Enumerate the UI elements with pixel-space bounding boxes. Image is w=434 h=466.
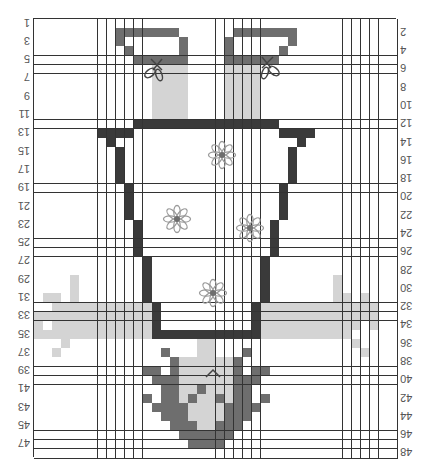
row-label: 46 xyxy=(400,429,422,439)
row-label: 48 xyxy=(400,447,422,457)
row-label: 28 xyxy=(400,265,422,275)
row-label: 11 xyxy=(8,109,30,119)
row-label: 23 xyxy=(8,219,30,229)
row-label: 1 xyxy=(8,18,30,28)
row-label: 43 xyxy=(8,402,30,412)
row-label: 42 xyxy=(400,393,422,403)
row-label: 27 xyxy=(8,255,30,265)
row-label: 33 xyxy=(8,310,30,320)
stitch-grid xyxy=(33,18,396,457)
row-label: 16 xyxy=(400,155,422,165)
row-label: 19 xyxy=(8,182,30,192)
row-label: 44 xyxy=(400,411,422,421)
row-label: 47 xyxy=(8,438,30,448)
knitting-chart: 1357911131517192123252729313335373941434… xyxy=(0,0,434,466)
row-label: 45 xyxy=(8,420,30,430)
row-label: 14 xyxy=(400,137,422,147)
row-label: 3 xyxy=(8,36,30,46)
row-label: 9 xyxy=(8,91,30,101)
row-label: 13 xyxy=(8,127,30,137)
row-label: 12 xyxy=(400,118,422,128)
row-label: 39 xyxy=(8,365,30,375)
row-label: 17 xyxy=(8,164,30,174)
row-label: 34 xyxy=(400,319,422,329)
row-label: 32 xyxy=(400,301,422,311)
row-label: 7 xyxy=(8,72,30,82)
row-label: 38 xyxy=(400,356,422,366)
row-label: 20 xyxy=(400,191,422,201)
row-label: 21 xyxy=(8,201,30,211)
row-label: 4 xyxy=(400,45,422,55)
row-label: 26 xyxy=(400,246,422,256)
row-label: 5 xyxy=(8,54,30,64)
row-label: 35 xyxy=(8,329,30,339)
row-label: 6 xyxy=(400,63,422,73)
row-label: 37 xyxy=(8,347,30,357)
row-label: 41 xyxy=(8,383,30,393)
row-label: 10 xyxy=(400,100,422,110)
row-label: 31 xyxy=(8,292,30,302)
row-label: 25 xyxy=(8,237,30,247)
row-label: 22 xyxy=(400,210,422,220)
row-label: 24 xyxy=(400,228,422,238)
row-label: 36 xyxy=(400,338,422,348)
row-label: 2 xyxy=(400,27,422,37)
grid-cell xyxy=(388,449,398,459)
row-label: 18 xyxy=(400,173,422,183)
row-label: 15 xyxy=(8,146,30,156)
row-label: 30 xyxy=(400,283,422,293)
row-label: 40 xyxy=(400,374,422,384)
row-label: 29 xyxy=(8,274,30,284)
row-label: 8 xyxy=(400,82,422,92)
